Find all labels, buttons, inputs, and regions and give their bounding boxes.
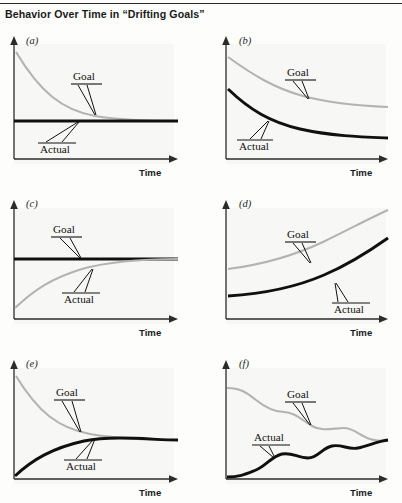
panel-tag: (c) <box>26 198 38 210</box>
x-axis-label: Time <box>350 487 372 498</box>
goal-label: Goal <box>53 223 75 235</box>
goal-label: Goal <box>73 70 95 82</box>
panel-a: (a) Goal Actual Time <box>0 26 201 185</box>
plot-background <box>226 368 386 484</box>
panel-tag: (f) <box>239 358 249 370</box>
goal-label: Goal <box>287 228 309 240</box>
actual-label: Actual <box>334 303 364 315</box>
panel-e: (e) Goal Actual Time <box>0 346 201 503</box>
panel-tag: (b) <box>239 35 252 47</box>
x-axis-label: Time <box>350 327 372 338</box>
x-axis-label: Time <box>139 167 161 178</box>
actual-label: Actual <box>64 293 94 305</box>
panel-grid: (a) Goal Actual Time <box>0 26 402 503</box>
x-axis-label: Time <box>139 487 161 498</box>
goal-label: Goal <box>287 388 309 400</box>
panel-tag: (a) <box>26 35 39 47</box>
panel-tag: (e) <box>26 358 38 370</box>
actual-label: Actual <box>254 431 284 443</box>
goal-label: Goal <box>287 66 309 78</box>
panel-tag: (d) <box>239 198 252 210</box>
page-title: Behavior Over Time in “Drifting Goals” <box>5 8 205 20</box>
plot-background <box>14 44 174 164</box>
x-axis-label: Time <box>139 327 161 338</box>
header-rule <box>0 3 402 4</box>
x-axis-label: Time <box>350 167 372 178</box>
actual-label: Actual <box>40 143 70 155</box>
panel-f: (f) Goal Actual Time <box>198 346 399 503</box>
goal-label: Goal <box>56 386 78 398</box>
actual-label: Actual <box>66 460 96 472</box>
panel-d: (d) Goal Actual Time <box>198 186 399 345</box>
actual-label: Actual <box>239 140 269 152</box>
panel-c: (c) Goal Actual Time <box>0 186 201 345</box>
panel-b: (b) Goal Actual Time <box>198 26 399 185</box>
